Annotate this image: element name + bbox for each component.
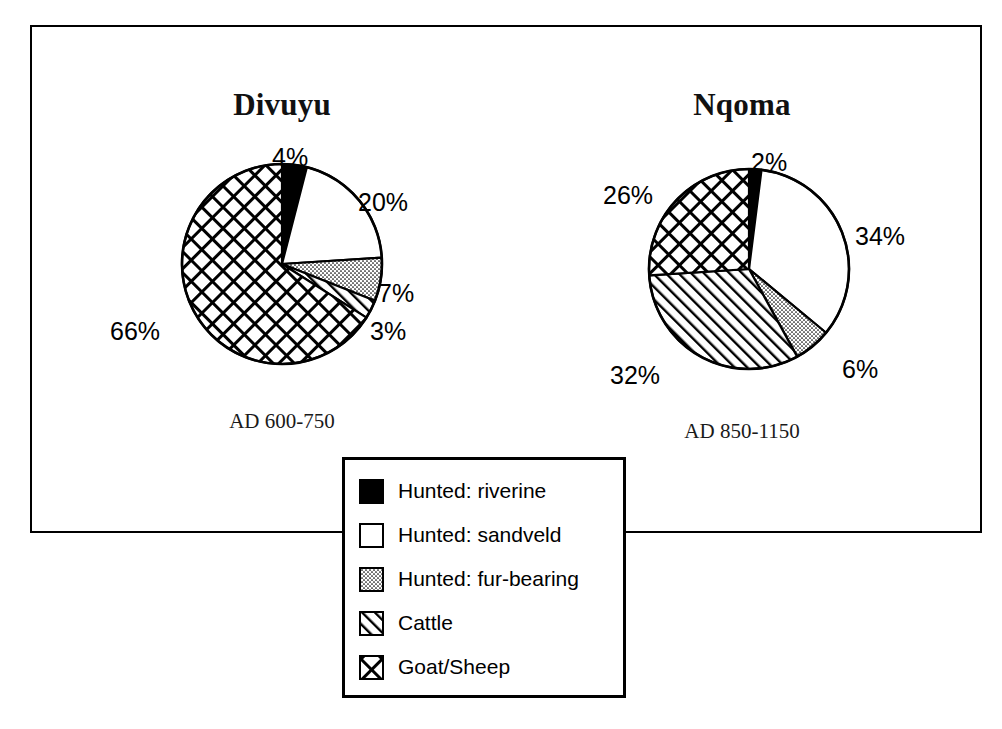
dotted-square-icon — [359, 567, 384, 592]
white-square-icon — [359, 523, 384, 548]
crosshatched-square-icon — [359, 655, 384, 680]
pie-percentage-label: 32% — [610, 363, 660, 388]
pie-percentage-label: 34% — [855, 224, 905, 249]
pie-percentage-label: 6% — [842, 357, 878, 382]
legend-item-label: Goat/Sheep — [398, 655, 510, 679]
pie-chart-nqoma — [637, 157, 861, 381]
black-square-icon — [359, 479, 384, 504]
chart-caption-nqoma: AD 850-1150 — [532, 419, 952, 444]
pie-percentage-label: 26% — [603, 183, 653, 208]
fauna-legend: Hunted: riverineHunted: sandveldHunted: … — [342, 457, 626, 698]
legend-item: Cattle — [359, 601, 615, 645]
pie-percentage-label: 20% — [358, 190, 408, 215]
hatched-square-icon — [359, 611, 384, 636]
figure-canvas: Divuyu AD 600-750 Nqoma AD 850-1150 4%20… — [0, 0, 1002, 729]
pie-chart-divuyu — [170, 152, 394, 376]
chart-panel-divuyu: Divuyu AD 600-750 — [72, 27, 492, 531]
legend-item-label: Cattle — [398, 611, 453, 635]
pie-slice — [649, 169, 749, 275]
chart-panel-nqoma: Nqoma AD 850-1150 — [532, 27, 952, 531]
pie-percentage-label: 4% — [272, 145, 308, 170]
legend-item-label: Hunted: sandveld — [398, 523, 561, 547]
legend-item-label: Hunted: fur-bearing — [398, 567, 579, 591]
legend-item: Hunted: sandveld — [359, 513, 615, 557]
legend-item: Hunted: riverine — [359, 469, 615, 513]
chart-title-nqoma: Nqoma — [532, 87, 952, 123]
pie-percentage-label: 3% — [370, 319, 406, 344]
pie-percentage-label: 7% — [378, 281, 414, 306]
pie-percentage-label: 2% — [751, 150, 787, 175]
legend-item-list: Hunted: riverineHunted: sandveldHunted: … — [359, 469, 615, 689]
legend-item: Goat/Sheep — [359, 645, 615, 689]
legend-item: Hunted: fur-bearing — [359, 557, 615, 601]
chart-title-divuyu: Divuyu — [72, 87, 492, 123]
chart-caption-divuyu: AD 600-750 — [72, 409, 492, 434]
legend-item-label: Hunted: riverine — [398, 479, 546, 503]
pie-percentage-label: 66% — [110, 319, 160, 344]
